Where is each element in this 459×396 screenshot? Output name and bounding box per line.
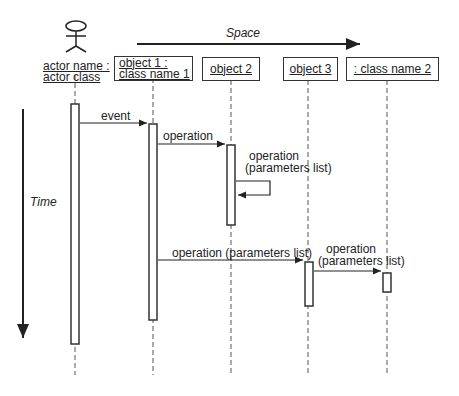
object-box-object-2[interactable]: object 2	[202, 57, 260, 81]
object-box-object-3[interactable]: object 3	[283, 57, 338, 81]
object-1-line2: class name 1	[119, 69, 190, 80]
message-arrow-self	[236, 181, 270, 195]
actor-icon	[66, 21, 86, 52]
message-label-op-params: operation (parameters list)	[172, 247, 312, 259]
object-box-object-1[interactable]: object 1 : class name 1	[114, 56, 193, 81]
activation-class-2	[383, 273, 391, 292]
space-label: Space	[226, 27, 260, 39]
object-2-label: object 2	[210, 64, 252, 75]
message-label-event: event	[101, 110, 130, 122]
self-label-line2: (parameters list)	[245, 162, 332, 174]
object-box-class-name-2[interactable]: : class name 2	[346, 57, 439, 81]
message-label-self: operation (parameters list)	[245, 150, 332, 174]
actor-name-line2: actor class	[43, 72, 110, 83]
actor-name-label: actor name : actor class	[43, 61, 110, 83]
activation-object-2	[227, 145, 235, 225]
object-3-label: object 3	[289, 64, 331, 75]
message-label-operation: operation	[163, 130, 213, 142]
activation-actor	[71, 104, 79, 344]
activation-object-3	[305, 262, 313, 306]
time-label: Time	[30, 196, 57, 208]
message-label-op-params-2: operation (parameters list)	[318, 243, 405, 267]
class-name-2-label: : class name 2	[354, 64, 431, 75]
activation-object-1	[149, 124, 157, 320]
op-params-2-line2: (parameters list)	[318, 255, 405, 267]
